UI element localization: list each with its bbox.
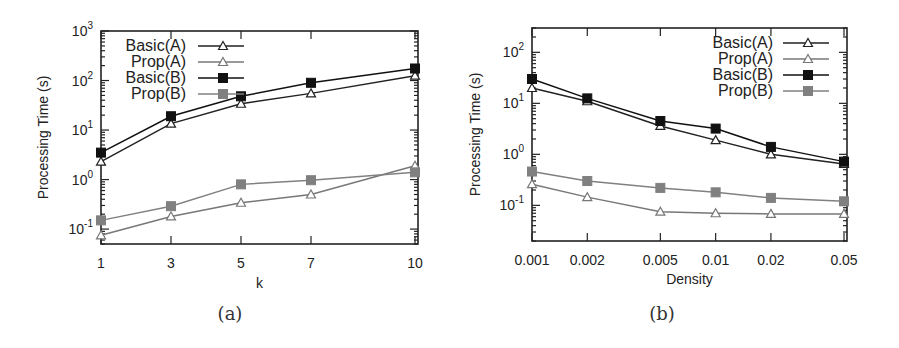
legend-marker	[219, 90, 228, 99]
x-tick-label: 10	[407, 255, 423, 271]
x-tick-label: 0.05	[830, 252, 857, 268]
y-tick-label: 10-1	[500, 194, 525, 213]
legend-label: Basic(A)	[126, 37, 186, 54]
chart-a: 10-1100101102103135710kProcessing Time (…	[35, 20, 423, 324]
y-tick-label: 100	[503, 143, 525, 162]
data-point	[656, 117, 665, 126]
x-tick-label: 5	[237, 255, 245, 271]
data-point	[97, 216, 106, 225]
legend-label: Basic(A)	[713, 34, 773, 51]
data-point	[97, 148, 106, 157]
legend: Basic(A)Prop(A)Basic(B)Prop(B)	[126, 37, 244, 102]
legend-label: Prop(A)	[718, 50, 773, 67]
legend-marker	[804, 71, 813, 80]
x-tick-label: 0.002	[570, 252, 605, 268]
series-basic-b	[528, 75, 849, 167]
series-line	[532, 172, 844, 202]
legend: Basic(A)Prop(A)Basic(B)Prop(B)	[713, 34, 829, 99]
series-prop-b	[97, 168, 420, 225]
chart-b: 10-11001011020.0010.0020.0050.010.020.05…	[467, 28, 858, 324]
x-tick-label: 0.02	[757, 252, 784, 268]
plot-frame	[532, 28, 847, 241]
series-prop-a	[97, 161, 420, 239]
legend-label: Prop(B)	[131, 85, 186, 102]
x-tick-label: 0.001	[514, 252, 549, 268]
y-tick-label: 100	[72, 169, 94, 188]
data-point	[656, 183, 665, 192]
legend-marker	[219, 74, 228, 83]
y-tick-label: 101	[72, 119, 94, 138]
data-point	[711, 124, 720, 133]
legend-label: Basic(B)	[713, 66, 773, 83]
legend-label: Prop(B)	[718, 82, 773, 99]
data-point	[411, 64, 420, 73]
y-tick-label: 10-1	[69, 218, 94, 237]
data-point	[583, 177, 592, 186]
x-tick-label: 0.005	[643, 252, 678, 268]
data-point	[766, 193, 775, 202]
data-point	[528, 75, 537, 84]
legend-label: Prop(A)	[131, 53, 186, 70]
data-point	[840, 197, 849, 206]
series-prop-b	[528, 167, 849, 206]
figure-canvas: 10-1100101102103135710kProcessing Time (…	[0, 0, 899, 348]
y-tick-label: 101	[503, 92, 525, 111]
x-tick-label: 1	[97, 255, 105, 271]
data-point	[237, 92, 246, 101]
data-point	[307, 78, 316, 87]
y-tick-label: 102	[72, 70, 94, 89]
y-tick-label: 103	[72, 20, 94, 39]
legend-label: Basic(B)	[126, 69, 186, 86]
data-point	[167, 112, 176, 121]
data-point	[411, 168, 420, 177]
x-axis-title: Density	[666, 271, 713, 287]
y-tick-label: 102	[503, 41, 525, 60]
data-point	[167, 202, 176, 211]
data-point	[528, 167, 537, 176]
data-point	[711, 188, 720, 197]
data-point	[307, 176, 316, 185]
data-point	[237, 180, 246, 189]
x-tick-label: 7	[307, 255, 315, 271]
data-point	[97, 157, 106, 165]
x-tick-label: 0.01	[702, 252, 729, 268]
data-point	[766, 142, 775, 151]
x-axis-title: k	[256, 275, 264, 291]
data-point	[840, 157, 849, 166]
data-point	[583, 94, 592, 103]
legend-marker	[804, 87, 813, 96]
panel-caption: (b)	[649, 303, 675, 324]
y-axis-title: Processing Time (s)	[467, 73, 483, 197]
x-tick-label: 3	[167, 255, 175, 271]
panel-caption: (a)	[218, 303, 243, 324]
y-axis-title: Processing Time (s)	[35, 76, 51, 200]
